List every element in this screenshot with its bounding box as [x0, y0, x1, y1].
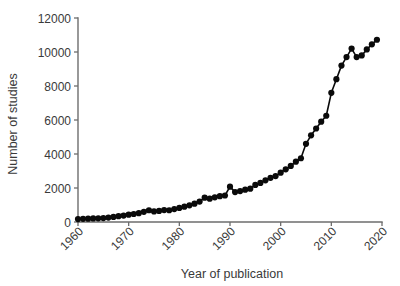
x-tick-label: 2000 [260, 224, 289, 253]
data-point-marker [197, 199, 203, 205]
y-axis: 020004000600080001000012000 [38, 12, 78, 230]
y-tick-label: 12000 [38, 12, 72, 26]
chart-figure: 020004000600080001000012000 196019701980… [0, 0, 400, 286]
data-point-marker [288, 163, 294, 169]
y-tick-label: 6000 [44, 114, 71, 128]
x-axis: 1960197019801990200020102020 [57, 222, 390, 253]
y-tick-label: 0 [64, 216, 71, 230]
data-point-marker [303, 141, 309, 147]
data-point-marker [328, 90, 334, 96]
data-point-marker [364, 46, 370, 52]
data-point-marker [293, 159, 299, 165]
data-point-marker [283, 166, 289, 172]
x-tick-label: 2020 [361, 224, 390, 253]
data-point-marker [278, 170, 284, 176]
y-tick-label: 2000 [44, 182, 71, 196]
x-tick-label: 1990 [209, 224, 238, 253]
x-tick-label: 2010 [311, 224, 340, 253]
y-axis-title: Number of studies [6, 73, 20, 174]
data-point-marker [227, 184, 233, 190]
data-point-marker [343, 54, 349, 60]
x-tick-label: 1980 [159, 224, 188, 253]
data-point-marker [359, 52, 365, 58]
y-tick-label: 10000 [38, 46, 72, 60]
data-point-marker [308, 132, 314, 138]
y-tick-label: 8000 [44, 80, 71, 94]
data-series-group [75, 37, 380, 223]
x-tick-group: 1960197019801990200020102020 [57, 222, 390, 253]
data-point-marker [374, 37, 380, 43]
x-axis-title: Year of publication [181, 267, 283, 281]
x-tick-label: 1960 [57, 224, 86, 253]
line-chart: 020004000600080001000012000 196019701980… [0, 0, 400, 286]
data-point-marker [349, 46, 355, 52]
data-point-marker [247, 186, 253, 192]
data-point-marker [222, 192, 228, 198]
data-point-marker [323, 113, 329, 119]
data-point-marker [369, 41, 375, 47]
data-point-marker [313, 125, 319, 131]
data-point-marker [333, 76, 339, 82]
x-tick-label: 1970 [108, 224, 137, 253]
data-point-marker [318, 119, 324, 125]
data-point-marker [273, 173, 279, 179]
data-point-marker [298, 155, 304, 161]
y-tick-label: 4000 [44, 148, 71, 162]
data-point-marker [338, 63, 344, 69]
y-tick-group: 020004000600080001000012000 [38, 12, 78, 230]
series-line [78, 40, 377, 219]
